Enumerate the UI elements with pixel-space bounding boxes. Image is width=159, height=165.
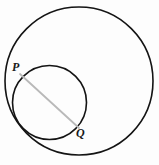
diagram-svg: [0, 0, 159, 165]
point-label-p: P: [12, 61, 19, 73]
segment-pq: [20, 74, 79, 128]
geometry-figure: P Q: [0, 0, 159, 165]
point-label-q: Q: [76, 127, 85, 139]
